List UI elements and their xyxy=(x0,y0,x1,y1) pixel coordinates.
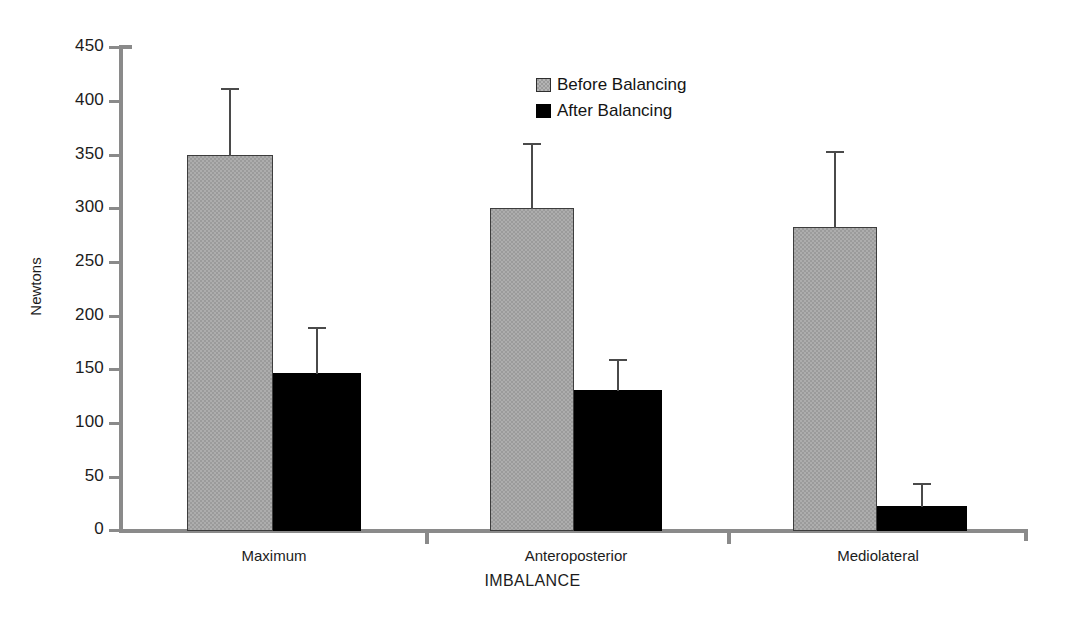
x-axis-title: IMBALANCE xyxy=(0,572,1065,590)
y-axis-title: Newtons xyxy=(27,227,44,347)
errorbar-cap-before-maximum xyxy=(221,88,239,90)
errorbar-stem-after-maximum xyxy=(316,327,318,374)
y-tick-200 xyxy=(109,315,121,318)
y-tick-label-100: 100 xyxy=(58,412,104,432)
y-tick-label-0-wrap: 0 xyxy=(52,519,104,539)
y-tick-label-350: 350 xyxy=(58,144,104,164)
y-tick-250 xyxy=(109,261,121,264)
y-tick-300 xyxy=(109,207,121,210)
x-tick-group-1 xyxy=(425,533,429,544)
y-tick-100 xyxy=(109,422,121,425)
y-tick-label-300: 300 xyxy=(58,197,104,217)
y-tick-label-50-wrap: 50 xyxy=(52,466,104,486)
y-tick-label-150-wrap: 150 xyxy=(52,358,104,378)
y-tick-label-0: 0 xyxy=(58,519,104,539)
y-tick-label-450-wrap: 450 xyxy=(52,36,104,56)
y-tick-label-200: 200 xyxy=(58,305,104,325)
y-tick-450 xyxy=(109,46,121,49)
errorbar-cap-after-anteroposterior xyxy=(609,359,627,361)
y-axis-line xyxy=(119,45,123,533)
gray-swatch-icon xyxy=(536,78,551,92)
errorbar-stem-after-mediolateral xyxy=(921,483,923,507)
legend-label-before-balancing: Before Balancing xyxy=(557,75,686,95)
bar-before-mediolateral xyxy=(793,227,877,531)
y-tick-label-300-wrap: 300 xyxy=(52,197,104,217)
errorbar-stem-before-maximum xyxy=(229,88,231,156)
black-swatch-icon xyxy=(536,104,551,118)
y-tick-50 xyxy=(109,476,121,479)
errorbar-stem-after-anteroposterior xyxy=(617,359,619,391)
bar-before-maximum xyxy=(187,155,273,531)
y-tick-label-250: 250 xyxy=(58,251,104,271)
bar-after-anteroposterior xyxy=(574,390,662,531)
y-tick-400 xyxy=(109,100,121,103)
bar-chart: 450 400 350 300 250 200 150 100 50 0 New… xyxy=(0,0,1065,617)
x-axis-end-cap xyxy=(1024,529,1028,541)
legend-item-before-balancing: Before Balancing xyxy=(536,73,686,97)
errorbar-cap-after-mediolateral xyxy=(913,483,931,485)
legend-label-after-balancing: After Balancing xyxy=(557,101,672,121)
y-tick-label-400-wrap: 400 xyxy=(52,90,104,110)
y-tick-label-50: 50 xyxy=(58,466,104,486)
x-category-label-maximum: Maximum xyxy=(241,547,306,564)
errorbar-stem-before-anteroposterior xyxy=(531,143,533,209)
y-tick-150 xyxy=(109,368,121,371)
errorbar-stem-before-mediolateral xyxy=(834,151,836,228)
errorbar-cap-before-mediolateral xyxy=(826,151,844,153)
errorbar-cap-before-anteroposterior xyxy=(523,143,541,145)
x-category-label-mediolateral: Mediolateral xyxy=(837,547,919,564)
y-tick-label-450: 450 xyxy=(58,36,104,56)
bar-after-mediolateral xyxy=(877,506,967,531)
y-tick-label-250-wrap: 250 xyxy=(52,251,104,271)
errorbar-cap-after-maximum xyxy=(308,327,326,329)
x-tick-group-2 xyxy=(727,533,731,544)
y-tick-label-150: 150 xyxy=(58,358,104,378)
bar-before-anteroposterior xyxy=(490,208,574,531)
legend-item-after-balancing: After Balancing xyxy=(536,99,686,123)
bar-after-maximum xyxy=(273,373,361,531)
y-tick-label-350-wrap: 350 xyxy=(52,144,104,164)
legend: Before Balancing After Balancing xyxy=(536,73,686,125)
y-tick-label-200-wrap: 200 xyxy=(52,305,104,325)
y-tick-label-400: 400 xyxy=(58,90,104,110)
y-tick-label-100-wrap: 100 xyxy=(52,412,104,432)
x-category-label-anteroposterior: Anteroposterior xyxy=(525,547,628,564)
y-tick-350 xyxy=(109,154,121,157)
